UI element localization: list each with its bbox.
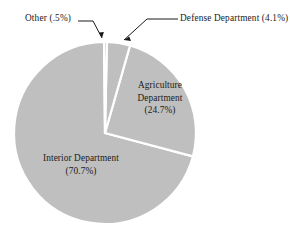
slice-label-defense-department-text: Defense Department (4.1%) bbox=[180, 13, 288, 24]
slice-label-other: Other (.5%) bbox=[25, 13, 71, 24]
slice-label-agriculture-name-line2: Department bbox=[112, 92, 208, 105]
slice-label-agriculture-department: Agriculture Department (24.7%) bbox=[112, 79, 208, 117]
slice-label-interior-department: Interior Department (70.7%) bbox=[15, 152, 147, 177]
leader-line-other bbox=[78, 21, 104, 38]
pie-chart: Other (.5%) Defense Department (4.1%) Ag… bbox=[0, 0, 290, 250]
slice-label-agriculture-name-line1: Agriculture bbox=[112, 79, 208, 92]
slice-label-interior-name: Interior Department bbox=[15, 152, 147, 165]
slice-label-defense-department: Defense Department (4.1%) bbox=[180, 13, 288, 24]
slice-label-agriculture-value: (24.7%) bbox=[112, 104, 208, 117]
leader-line-defense bbox=[124, 19, 178, 41]
slice-label-interior-value: (70.7%) bbox=[15, 165, 147, 178]
pie-chart-canvas bbox=[0, 0, 290, 250]
slice-label-other-text: Other (.5%) bbox=[25, 13, 71, 24]
